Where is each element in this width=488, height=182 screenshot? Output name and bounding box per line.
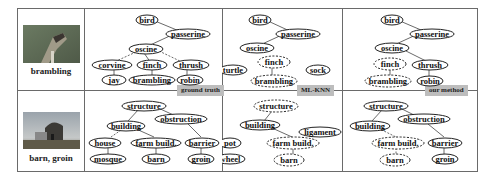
svg-text:farm build.: farm build. bbox=[377, 138, 418, 148]
tree-node: passerine bbox=[276, 29, 320, 39]
tree-node: barn bbox=[274, 154, 304, 166]
svg-text:corvine: corvine bbox=[99, 60, 126, 70]
tree-node: barrier bbox=[185, 138, 219, 148]
svg-text:thrush: thrush bbox=[418, 60, 442, 70]
tree-node: thrush bbox=[173, 60, 209, 70]
svg-text:farm build.: farm build. bbox=[135, 138, 176, 148]
hierarchy-tree: bird passerine oscine finch thrush bramb… bbox=[342, 8, 478, 90]
tree-node: building bbox=[107, 121, 145, 131]
tree-node: mosque bbox=[90, 154, 126, 164]
tree-node: corvine bbox=[92, 60, 132, 70]
svg-text:passerine: passerine bbox=[415, 29, 449, 39]
tree-node: barn bbox=[142, 154, 170, 164]
svg-text:house: house bbox=[95, 138, 116, 148]
svg-text:turtle: turtle bbox=[223, 65, 244, 75]
tree-node: structure bbox=[364, 101, 408, 111]
tree-node: ligament bbox=[299, 127, 341, 137]
svg-text:ligament: ligament bbox=[304, 127, 336, 137]
svg-text:brambling: brambling bbox=[255, 76, 294, 86]
tree-node: obstruction bbox=[155, 114, 207, 124]
tree-node: oscine bbox=[129, 44, 163, 54]
tree-node: house bbox=[89, 138, 121, 148]
tree-node: structure bbox=[254, 100, 298, 112]
svg-text:brambling: brambling bbox=[369, 76, 408, 86]
tree-node: finch bbox=[258, 56, 290, 68]
hierarchy-tree: structure obstruction building house far… bbox=[84, 91, 222, 172]
svg-text:groin: groin bbox=[191, 154, 210, 164]
svg-text:building: building bbox=[355, 121, 386, 131]
svg-text:bird: bird bbox=[139, 15, 155, 25]
svg-text:structure: structure bbox=[369, 101, 403, 111]
tree-node: finch bbox=[137, 60, 167, 70]
svg-text:wheel: wheel bbox=[222, 154, 241, 164]
hierarchy-tree: bird passerine oscine finch turtle sock … bbox=[222, 8, 342, 90]
tree-node: brambling bbox=[365, 75, 411, 87]
svg-text:finch: finch bbox=[381, 59, 400, 69]
svg-text:passerine: passerine bbox=[171, 29, 205, 39]
hierarchy-tree: structure building ligament pot farm bui… bbox=[222, 91, 342, 172]
tree-node: oscine bbox=[240, 43, 274, 53]
tree-node: passerine bbox=[166, 29, 210, 39]
tree-node: passerine bbox=[410, 29, 454, 39]
tree-node: finch bbox=[374, 58, 406, 70]
tree-node: farm build. bbox=[131, 138, 181, 148]
svg-text:pot: pot bbox=[224, 138, 236, 148]
svg-text:jay: jay bbox=[107, 75, 120, 85]
svg-text:robin: robin bbox=[180, 75, 200, 85]
svg-text:farm build.: farm build. bbox=[272, 138, 313, 148]
svg-text:oscine: oscine bbox=[135, 44, 157, 54]
svg-text:brambling: brambling bbox=[133, 75, 172, 85]
tree-node: farm build. bbox=[267, 137, 319, 149]
svg-text:sock: sock bbox=[310, 65, 326, 75]
tree-node: bird bbox=[136, 15, 158, 25]
tree-node: barrier bbox=[428, 138, 462, 148]
hierarchy-tree: bird passerine oscine corvine finch thru… bbox=[84, 8, 222, 90]
row-caption: brambling bbox=[18, 66, 84, 76]
svg-text:robin: robin bbox=[420, 76, 440, 86]
row-caption: barn, groin bbox=[18, 153, 84, 163]
svg-text:mosque: mosque bbox=[94, 154, 122, 164]
tree-node: bird bbox=[249, 15, 271, 25]
bird-photo bbox=[23, 25, 80, 63]
svg-text:finch: finch bbox=[143, 60, 162, 70]
svg-text:passerine: passerine bbox=[281, 29, 315, 39]
svg-text:oscine: oscine bbox=[246, 43, 268, 53]
tree-node: bird bbox=[381, 15, 403, 25]
svg-text:finch: finch bbox=[265, 57, 284, 67]
tree-node: building bbox=[350, 121, 390, 131]
tree-node: robin bbox=[417, 76, 443, 86]
tree-node: pot bbox=[222, 138, 241, 148]
svg-text:barn: barn bbox=[386, 155, 404, 165]
svg-text:obstruction: obstruction bbox=[403, 114, 445, 124]
svg-text:bird: bird bbox=[252, 15, 268, 25]
svg-text:oscine: oscine bbox=[381, 43, 403, 53]
svg-text:building: building bbox=[245, 120, 276, 130]
svg-text:structure: structure bbox=[127, 101, 161, 111]
tree-node: sock bbox=[306, 65, 330, 75]
svg-text:structure: structure bbox=[259, 101, 293, 111]
svg-text:obstruction: obstruction bbox=[160, 114, 202, 124]
tree-node: robin bbox=[177, 75, 203, 85]
svg-text:bird: bird bbox=[384, 15, 400, 25]
svg-text:groin: groin bbox=[435, 154, 454, 164]
svg-text:barrier: barrier bbox=[189, 138, 216, 148]
svg-text:barn: barn bbox=[147, 154, 165, 164]
tree-node: building bbox=[240, 120, 280, 130]
tree-node: jay bbox=[102, 75, 126, 85]
tree-node: barn bbox=[380, 154, 410, 166]
svg-text:thrush: thrush bbox=[179, 60, 203, 70]
tree-node: groin bbox=[432, 154, 458, 164]
svg-text:building: building bbox=[111, 121, 142, 131]
tree-node: brambling bbox=[129, 75, 175, 85]
tree-node: turtle bbox=[222, 65, 247, 75]
tree-node: structure bbox=[122, 101, 166, 111]
hierarchy-tree: structure obstruction building farm buil… bbox=[342, 91, 478, 172]
tree-node: farm build. bbox=[372, 137, 424, 149]
tree-node: brambling bbox=[251, 75, 297, 87]
tree-node: groin bbox=[188, 154, 214, 164]
tree-node: thrush bbox=[412, 60, 448, 70]
tree-node: oscine bbox=[375, 43, 409, 53]
svg-text:barn: barn bbox=[280, 155, 298, 165]
svg-text:barrier: barrier bbox=[432, 138, 459, 148]
barn-photo bbox=[23, 112, 80, 149]
